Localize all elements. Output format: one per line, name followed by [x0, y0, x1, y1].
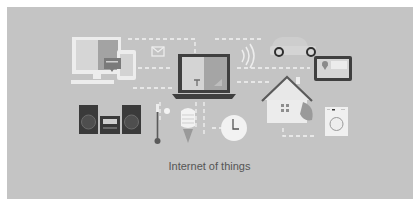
laptop-icon — [172, 54, 236, 99]
smart-house-icon — [262, 76, 313, 123]
wifi-signal-icon — [242, 44, 254, 68]
light-bulb-icon — [181, 108, 195, 143]
stereo-speakers-icon — [79, 105, 141, 134]
wall-clock-icon — [221, 115, 247, 141]
illustration-caption: Internet of things — [0, 160, 419, 172]
washing-machine-icon — [325, 107, 348, 136]
car-icon — [270, 37, 316, 56]
thermometer-icon — [155, 104, 171, 144]
iot-illustration — [0, 0, 419, 205]
tablet-map-icon — [314, 56, 352, 81]
envelope-mail-icon — [152, 47, 164, 56]
